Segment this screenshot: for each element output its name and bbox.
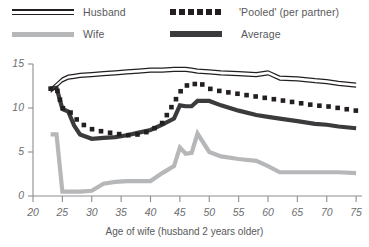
series-marker-pooled xyxy=(200,82,205,87)
x-axis-title: Age of wife (husband 2 years older) xyxy=(0,226,369,237)
series-marker-pooled xyxy=(55,89,60,94)
y-axis-ticks xyxy=(28,64,33,196)
series-marker-pooled xyxy=(272,97,277,102)
legend-item-pooled: 'Pooled' (per partner) xyxy=(170,6,339,18)
series-marker-pooled xyxy=(217,89,222,94)
series-line-wife xyxy=(51,134,357,192)
legend-label-husband: Husband xyxy=(83,6,126,18)
x-axis-tick-label: 55 xyxy=(228,206,250,218)
x-axis-tick-label: 45 xyxy=(169,206,191,218)
legend-label-wife: Wife xyxy=(83,28,104,40)
chart-figure: Husband Wife 'Pooled' (per partner) Aver… xyxy=(0,0,369,247)
series-marker-pooled xyxy=(169,105,174,110)
series-line-average xyxy=(51,88,357,139)
legend-item-wife: Wife xyxy=(12,28,104,40)
x-axis-tick-label: 70 xyxy=(316,206,338,218)
series-marker-pooled xyxy=(160,121,165,126)
series-marker-pooled xyxy=(299,101,304,106)
series-marker-pooled xyxy=(58,97,63,102)
series-marker-pooled xyxy=(290,100,295,105)
series-marker-pooled xyxy=(354,108,359,113)
x-axis-tick-label: 25 xyxy=(51,206,73,218)
series-marker-pooled xyxy=(82,123,87,128)
x-axis-tick-label: 20 xyxy=(22,206,44,218)
series-marker-pooled xyxy=(90,127,95,132)
series-marker-pooled xyxy=(308,102,313,107)
series-marker-pooled xyxy=(144,130,149,135)
series-marker-pooled xyxy=(208,87,213,92)
chart-plot-area: 051015 202530354045505560657075 Age of w… xyxy=(0,52,369,247)
series-marker-pooled xyxy=(61,106,66,111)
series-marker-pooled xyxy=(235,91,240,96)
series-marker-pooled xyxy=(326,104,331,109)
series-marker-pooled xyxy=(135,132,140,137)
legend-label-pooled: 'Pooled' (per partner) xyxy=(239,6,339,18)
series-marker-pooled xyxy=(174,97,179,102)
x-axis-tick-label: 40 xyxy=(140,206,162,218)
series-marker-pooled xyxy=(152,126,157,131)
series-marker-pooled xyxy=(193,82,198,87)
x-axis-tick-label: 75 xyxy=(345,206,367,218)
series-marker-pooled xyxy=(165,113,170,118)
series-marker-pooled xyxy=(226,90,231,95)
legend-item-husband: Husband xyxy=(12,6,126,18)
series-marker-pooled xyxy=(335,106,340,111)
dotted-line-swatch-icon xyxy=(170,6,230,18)
legend-label-average: Average xyxy=(241,28,281,40)
series-marker-pooled xyxy=(126,133,131,138)
series-marker-pooled xyxy=(99,129,104,134)
chart-series-layer xyxy=(48,67,358,191)
series-marker-pooled xyxy=(262,96,267,101)
series-marker-pooled xyxy=(117,132,122,137)
series-marker-pooled xyxy=(108,130,113,135)
series-marker-pooled xyxy=(253,94,258,99)
x-axis-tick-label: 30 xyxy=(81,206,103,218)
x-axis-tick-label: 35 xyxy=(110,206,132,218)
series-line-husband xyxy=(51,71,357,92)
series-marker-pooled xyxy=(244,93,249,98)
chart-legend: Husband Wife 'Pooled' (per partner) Aver… xyxy=(0,0,369,52)
series-marker-pooled xyxy=(74,117,79,122)
thick-line-swatch-icon xyxy=(12,28,74,40)
series-marker-pooled xyxy=(344,107,349,112)
series-marker-pooled xyxy=(185,83,190,88)
series-marker-pooled xyxy=(48,86,53,91)
series-marker-pooled xyxy=(317,103,322,108)
x-axis-tick-label: 50 xyxy=(198,206,220,218)
series-marker-pooled xyxy=(178,89,183,94)
x-axis-tick-label: 60 xyxy=(257,206,279,218)
y-axis-tick-label: 0 xyxy=(2,189,24,201)
double-line-swatch-icon xyxy=(12,6,74,18)
legend-item-average: Average xyxy=(170,28,281,40)
thick-line-swatch-icon xyxy=(170,28,232,40)
series-marker-pooled xyxy=(68,110,73,115)
series-marker-pooled xyxy=(281,98,286,103)
y-axis-tick-label: 10 xyxy=(2,101,24,113)
x-axis-ticks xyxy=(33,196,356,202)
y-axis-tick-label: 15 xyxy=(2,57,24,69)
y-axis-tick-label: 5 xyxy=(2,145,24,157)
x-axis-tick-label: 65 xyxy=(286,206,308,218)
